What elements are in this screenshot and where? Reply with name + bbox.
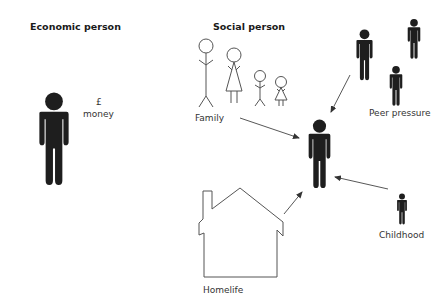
childhood-icon [397, 193, 407, 224]
economic-person-icon [39, 93, 68, 185]
childhood-arrow [335, 177, 388, 189]
house-icon [199, 188, 283, 277]
peer-pressure-icon [356, 19, 420, 106]
family-arrow [240, 118, 299, 138]
family-icon [199, 39, 287, 107]
homelife-arrow [284, 192, 302, 214]
diagram-canvas [0, 0, 445, 307]
social-person-icon [309, 120, 331, 189]
peer-pressure-arrow [331, 75, 350, 112]
